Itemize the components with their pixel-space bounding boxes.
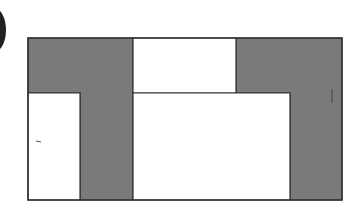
region-bottom-left-box xyxy=(28,93,80,200)
region-bottom-middle-box xyxy=(133,93,290,200)
circle-marker-icon xyxy=(0,8,6,52)
region-top-middle-box xyxy=(133,38,236,93)
block-diagram xyxy=(0,0,362,209)
